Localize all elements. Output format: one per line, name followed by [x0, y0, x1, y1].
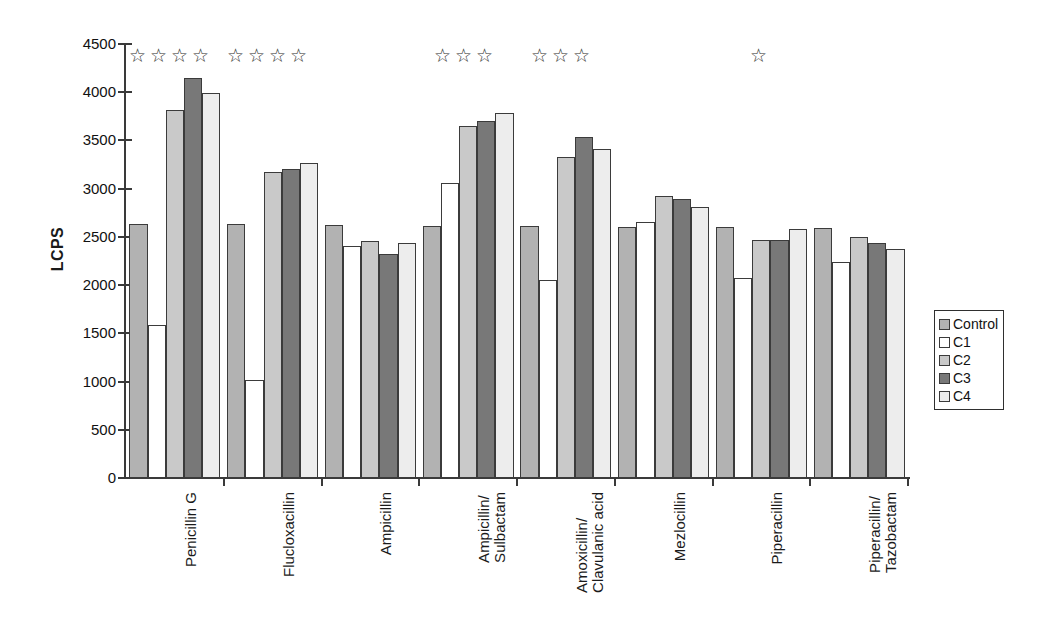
legend-swatch-icon	[939, 319, 950, 330]
y-axis-title-text: LCPS	[49, 213, 67, 285]
bar	[477, 121, 495, 478]
y-axis-title: LCPS	[38, 216, 78, 286]
x-axis-tick	[516, 477, 518, 486]
x-axis-tick	[223, 477, 225, 486]
x-axis-category-label: Penicillin G	[183, 492, 199, 567]
x-axis-tick	[321, 477, 323, 486]
x-axis-tick	[614, 477, 616, 486]
significance-star-group: ☆☆☆☆	[129, 46, 213, 65]
significance-star-group: ☆☆☆☆	[227, 46, 311, 65]
x-axis-category-label: Mezlocillin	[672, 492, 688, 561]
x-axis-category-label: Flucloxacillin	[281, 492, 297, 577]
bar	[398, 243, 416, 478]
significance-star-group: ☆☆☆	[434, 46, 497, 65]
bar	[636, 222, 654, 478]
bar	[575, 137, 593, 478]
x-axis-category-label: Piperacillin/Tazobactam	[867, 492, 899, 573]
bar-group	[615, 44, 713, 478]
legend-item[interactable]: C2	[939, 351, 998, 369]
y-axis-tick-label: 2500	[54, 229, 116, 244]
bar-group	[224, 44, 322, 478]
legend-swatch-icon	[939, 355, 950, 366]
bar	[227, 224, 245, 478]
x-axis-tick	[907, 477, 909, 486]
bar	[129, 224, 147, 478]
bar	[325, 225, 343, 478]
legend-item-label: C1	[953, 335, 971, 349]
x-axis-category-label: Piperacillin	[769, 492, 785, 565]
x-axis-category-label: Amoxicillin/Clavulanic acid	[574, 492, 606, 593]
bar-group	[419, 44, 517, 478]
y-axis-tick-label: 3500	[54, 132, 116, 147]
x-axis-category-label: Ampicillin	[378, 492, 394, 555]
bar	[264, 172, 282, 478]
legend-item-label: C4	[953, 389, 971, 403]
legend-item[interactable]: Control	[939, 315, 998, 333]
bar	[282, 169, 300, 478]
x-axis-category-label: Ampicillin/Sulbactam	[476, 492, 508, 563]
bar	[148, 325, 166, 478]
bar	[202, 93, 220, 478]
bar-group	[126, 44, 224, 478]
bar	[593, 149, 611, 478]
legend: ControlC1C2C3C4	[934, 310, 1004, 410]
bar	[814, 228, 832, 478]
x-axis-tick	[418, 477, 420, 486]
legend-item[interactable]: C1	[939, 333, 998, 351]
y-axis-tick-label: 1500	[54, 325, 116, 340]
bar	[886, 249, 904, 478]
legend-item-label: C3	[953, 371, 971, 385]
y-axis-tick-label: 3000	[54, 181, 116, 196]
bar	[752, 240, 770, 478]
legend-swatch-icon	[939, 337, 950, 348]
y-axis-tick-label: 2000	[54, 277, 116, 292]
bar	[789, 229, 807, 478]
plot-area	[126, 44, 908, 478]
y-axis-tick-label: 500	[54, 422, 116, 437]
bar	[734, 278, 752, 478]
bar	[868, 243, 886, 478]
bar	[245, 380, 263, 478]
bar	[379, 254, 397, 478]
y-axis-tick-label: 4000	[54, 84, 116, 99]
bar	[770, 240, 788, 478]
bar	[539, 280, 557, 478]
bar	[557, 157, 575, 478]
bar	[673, 199, 691, 478]
bar	[184, 78, 202, 478]
x-axis-tick	[712, 477, 714, 486]
legend-swatch-icon	[939, 391, 950, 402]
bar	[691, 207, 709, 478]
legend-swatch-icon	[939, 373, 950, 384]
significance-star-group: ☆	[750, 46, 771, 65]
bar	[343, 246, 361, 478]
y-axis-tick-label: 4500	[54, 36, 116, 51]
bar	[361, 241, 379, 478]
bar-group	[517, 44, 615, 478]
y-axis-tick-label: 0	[54, 470, 116, 485]
bar	[300, 163, 318, 478]
bar	[423, 226, 441, 478]
legend-item[interactable]: C3	[939, 369, 998, 387]
legend-item-label: C2	[953, 353, 971, 367]
bar-group	[713, 44, 811, 478]
legend-item[interactable]: C4	[939, 387, 998, 405]
bar-chart: LCPS 45004000350030002500200015001000500…	[0, 0, 1058, 630]
bar	[716, 227, 734, 478]
bar	[850, 237, 868, 478]
bar	[655, 196, 673, 478]
x-axis-tick	[809, 477, 811, 486]
bar	[441, 183, 459, 478]
legend-item-label: Control	[953, 317, 998, 331]
bar	[495, 113, 513, 478]
significance-star-group: ☆☆☆	[531, 46, 594, 65]
bar	[520, 226, 538, 478]
bar-group	[810, 44, 908, 478]
bar-group	[322, 44, 420, 478]
bar	[459, 126, 477, 478]
bar	[832, 262, 850, 478]
bar	[618, 227, 636, 478]
y-axis-tick-label: 1000	[54, 374, 116, 389]
bar	[166, 110, 184, 478]
